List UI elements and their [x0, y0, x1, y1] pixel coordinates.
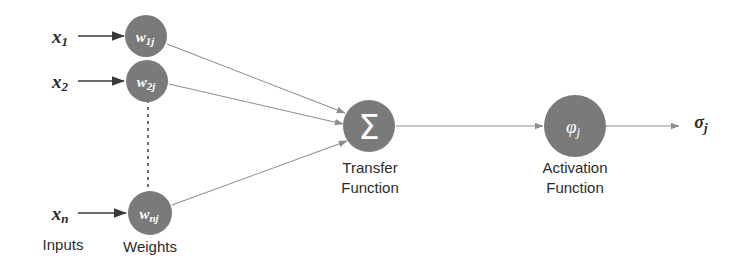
diagram-canvas: w1j w2j wnj Σ φj x1 x2 xn σj Inputs Weig… [0, 0, 739, 268]
sigma-summation-icon: Σ [358, 107, 379, 147]
input-label-x2: x2 [51, 71, 69, 94]
transfer-function-label-line2: Function [341, 179, 399, 196]
edge-w1j-to-sum [167, 44, 345, 113]
neuron-diagram: w1j w2j wnj Σ φj x1 x2 xn σj Inputs Weig… [0, 0, 739, 268]
output-label-sigma-j: σj [694, 112, 708, 135]
input-label-x1: x1 [51, 26, 68, 49]
input-label-xn: xn [51, 203, 69, 226]
activation-function-label-line1: Activation [542, 159, 607, 176]
activation-function-label-line2: Function [546, 179, 604, 196]
weights-group-label: Weights [123, 238, 177, 255]
edge-wnj-to-sum [172, 141, 347, 205]
edge-w2j-to-sum [169, 84, 343, 124]
transfer-function-label-line1: Transfer [342, 159, 397, 176]
inputs-group-label: Inputs [43, 236, 84, 253]
